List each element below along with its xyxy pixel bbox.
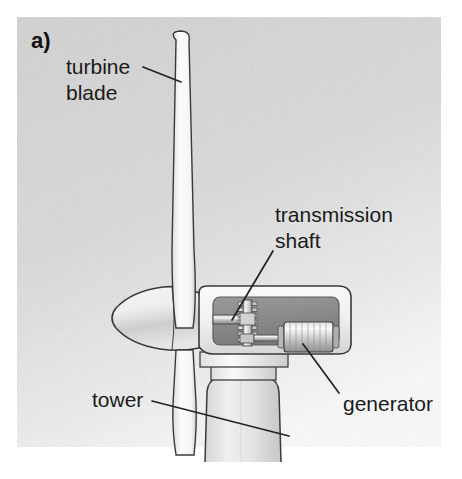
generator-part (278, 322, 339, 352)
figure-panel-a: a) turbine blade transmission shaft towe… (0, 0, 462, 479)
wind-turbine-diagram: a) turbine blade transmission shaft towe… (0, 0, 462, 479)
panel-label: a) (31, 28, 51, 53)
label-turbine-blade-line2: blade (66, 81, 117, 104)
tower-part (205, 378, 281, 462)
label-generator: generator (343, 392, 433, 415)
turbine-blade-lower (173, 350, 196, 455)
label-turbine-blade-line1: turbine (66, 55, 130, 78)
yaw-flange-plates (200, 352, 288, 380)
label-transmission-line1: transmission (275, 203, 393, 226)
label-tower: tower (92, 388, 143, 411)
label-transmission-line2: shaft (275, 229, 321, 252)
